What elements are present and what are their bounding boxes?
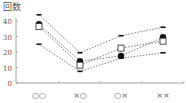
y-tick-label: 0 bbox=[8, 80, 12, 88]
dash-marker bbox=[119, 35, 124, 37]
y-tick-label: 10 bbox=[3, 65, 12, 73]
y-tick-label: 30 bbox=[3, 34, 12, 42]
svg-text:回数: 回数 bbox=[3, 1, 21, 12]
x-tick-label: ○× bbox=[114, 91, 128, 100]
x-tick-label: ○○ bbox=[32, 91, 46, 100]
x-axis-labels: ○○×○○××× bbox=[32, 91, 170, 100]
open-square-marker bbox=[77, 62, 83, 68]
x-tick-label: ×○ bbox=[73, 91, 87, 100]
open-square-marker bbox=[160, 38, 166, 44]
series-line-filled-circle bbox=[39, 24, 163, 61]
x-tick-label: ×× bbox=[156, 91, 169, 100]
dash-marker bbox=[37, 43, 42, 45]
dash-marker bbox=[161, 52, 166, 54]
open-square-marker bbox=[36, 23, 42, 29]
dash-marker bbox=[119, 57, 124, 59]
dash-marker bbox=[37, 14, 42, 16]
dash-marker bbox=[78, 71, 83, 73]
y-axis-title: 回数 bbox=[3, 1, 21, 12]
series-group bbox=[36, 14, 166, 72]
line-chart: 回数 010203040 ○○×○○××× bbox=[0, 0, 186, 103]
open-square-marker bbox=[118, 45, 124, 51]
dash-marker bbox=[161, 26, 166, 28]
y-tick-label: 20 bbox=[3, 49, 12, 57]
y-tick-label: 40 bbox=[3, 18, 12, 26]
series-line-lower bbox=[39, 44, 163, 71]
series-line-upper bbox=[39, 15, 163, 53]
dash-marker bbox=[78, 52, 83, 54]
